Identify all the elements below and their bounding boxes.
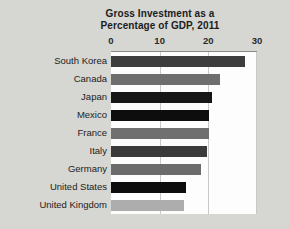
x-axis-tick-labels: 0102030 — [111, 35, 257, 49]
category-label: Mexico — [77, 109, 107, 120]
x-tick-label: 10 — [154, 35, 165, 46]
chart-title: Gross Investment as a Percentage of GDP,… — [60, 8, 260, 32]
category-label: Italy — [90, 145, 107, 156]
category-label: South Korea — [54, 55, 107, 66]
category-label: France — [77, 127, 107, 138]
category-labels: South KoreaCanadaJapanMexicoFranceItalyG… — [0, 51, 289, 214]
chart-title-line-1: Gross Investment as a — [60, 8, 260, 20]
category-label: United States — [50, 181, 107, 192]
x-tick-label: 30 — [252, 35, 263, 46]
chart-title-line-2: Percentage of GDP, 2011 — [60, 20, 260, 32]
category-label: Germany — [68, 163, 107, 174]
category-label: Japan — [81, 91, 107, 102]
x-tick-label: 20 — [203, 35, 214, 46]
chart-figure: Gross Investment as a Percentage of GDP,… — [0, 0, 289, 229]
x-tick-label: 0 — [108, 35, 113, 46]
category-label: United Kingdom — [39, 199, 107, 210]
category-label: Canada — [74, 73, 107, 84]
